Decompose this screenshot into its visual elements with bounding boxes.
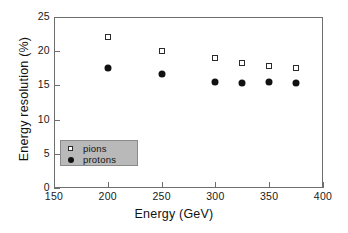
y-tick-label: 5 xyxy=(44,147,50,159)
x-tick-label: 400 xyxy=(314,190,332,202)
legend-label-protons: protons xyxy=(83,154,116,165)
y-tick-label: 10 xyxy=(38,113,50,125)
x-tick xyxy=(108,182,109,188)
y-tick xyxy=(54,85,60,86)
y-tick-label: 15 xyxy=(38,78,50,90)
y-axis-title: Energy resolution (%) xyxy=(17,19,31,179)
x-tick-label: 200 xyxy=(99,190,117,202)
x-tick xyxy=(269,182,270,188)
y-tick-label: 25 xyxy=(38,10,50,22)
x-tick xyxy=(162,182,163,188)
data-point-protons xyxy=(239,79,246,86)
energy-resolution-chart: 0510152025 150200250300350400 pions prot… xyxy=(0,0,348,233)
x-tick xyxy=(54,182,55,188)
data-point-protons xyxy=(293,80,300,87)
data-point-protons xyxy=(212,78,219,85)
x-axis-title: Energy (GeV) xyxy=(0,207,348,221)
y-tick xyxy=(54,188,60,189)
legend: pions protons xyxy=(60,140,138,166)
x-tick-label: 300 xyxy=(206,190,224,202)
data-point-pions xyxy=(212,55,218,61)
y-tick xyxy=(54,120,60,121)
data-point-pions xyxy=(266,63,272,69)
x-tick xyxy=(323,182,324,188)
data-point-pions xyxy=(293,65,299,71)
legend-label-pions: pions xyxy=(83,143,107,154)
data-point-pions xyxy=(159,48,165,54)
x-tick xyxy=(215,182,216,188)
data-point-protons xyxy=(104,64,111,71)
legend-item-pions: pions xyxy=(65,143,133,154)
open-square-icon xyxy=(65,146,76,151)
data-point-pions xyxy=(239,60,245,66)
x-tick-label: 250 xyxy=(152,190,170,202)
y-tick xyxy=(54,17,60,18)
legend-item-protons: protons xyxy=(65,154,133,165)
data-point-protons xyxy=(266,78,273,85)
data-point-pions xyxy=(105,34,111,40)
y-tick xyxy=(54,51,60,52)
y-tick-label: 20 xyxy=(38,44,50,56)
data-point-protons xyxy=(158,70,165,77)
filled-circle-icon xyxy=(65,157,76,163)
x-tick-label: 350 xyxy=(260,190,278,202)
x-tick-label: 150 xyxy=(45,190,63,202)
